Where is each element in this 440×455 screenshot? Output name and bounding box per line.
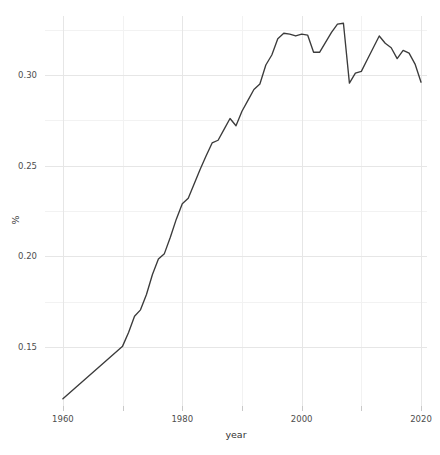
y-axis-title: % — [10, 215, 21, 224]
y-tick-label: 0.15 — [18, 342, 37, 352]
y-tick-label: 0.20 — [18, 251, 37, 261]
y-tick-label: 0.30 — [18, 70, 37, 80]
x-tick-label: 2000 — [291, 414, 313, 424]
line-chart-plot: 0.150.200.250.30 1960198020002020 year % — [0, 0, 440, 455]
x-tick-label: 1980 — [171, 414, 193, 424]
chart-container: 0.150.200.250.30 1960198020002020 year % — [0, 0, 440, 455]
x-tick-label: 1960 — [52, 414, 74, 424]
x-axis-tick-marks — [64, 406, 422, 411]
x-axis-tick-labels: 1960198020002020 — [52, 414, 432, 424]
y-axis-tick-labels: 0.150.200.250.30 — [18, 70, 37, 352]
x-axis-title: year — [225, 429, 246, 440]
x-tick-label: 2020 — [410, 414, 432, 424]
y-tick-label: 0.25 — [18, 161, 37, 171]
